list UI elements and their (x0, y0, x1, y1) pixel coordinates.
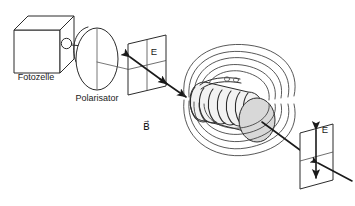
solenoid-component (190, 77, 275, 142)
e-field-plane-left: E (128, 35, 167, 95)
polarizer-component: Polarisator (74, 27, 131, 103)
e-field-right-label: E (322, 124, 328, 135)
solenoid-end-cap (239, 98, 275, 142)
physics-diagram-figure: Fotozelle Polarisator E (0, 0, 355, 206)
diagram-canvas: Fotozelle Polarisator E (0, 0, 355, 206)
e-field-left-label: E (151, 46, 157, 57)
ray-segment-mid (160, 79, 186, 97)
photocell-front-face (14, 30, 60, 73)
light-ray-into-solenoid (160, 79, 186, 97)
b-field-label: B⃗ (143, 120, 150, 132)
e-field-plane-right: E (300, 124, 352, 189)
photocell-label: Fotozelle (18, 72, 55, 82)
polarizer-label: Polarisator (75, 93, 118, 103)
